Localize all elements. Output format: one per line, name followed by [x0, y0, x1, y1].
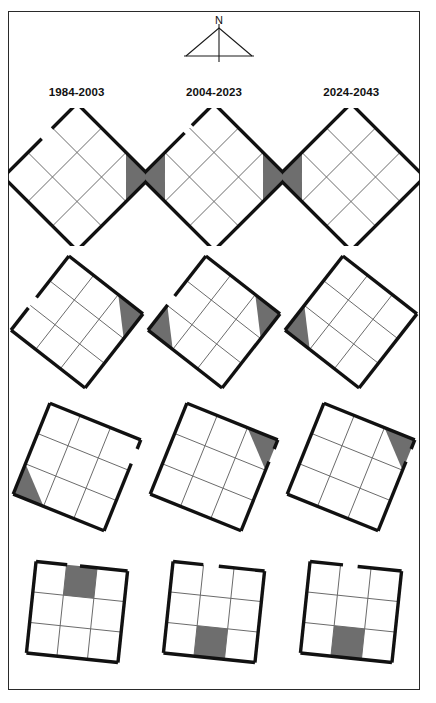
grid-line-horizontal — [302, 152, 376, 226]
shaded-cell-top-middle — [63, 564, 97, 598]
north-label: N — [176, 14, 262, 26]
outline-top — [36, 561, 67, 564]
shaded-cell-bottom-left — [282, 152, 302, 201]
outline-top — [358, 566, 402, 571]
grid-line-vertical — [327, 152, 401, 226]
grid-line-vertical — [52, 152, 126, 226]
grid-line-horizontal — [37, 433, 128, 470]
outline-left — [301, 561, 311, 653]
shaded-cell-bottom-left — [145, 152, 165, 201]
grid-line-vertical — [318, 415, 355, 506]
grid-line-vertical — [165, 127, 239, 201]
diagram-r4c2 — [145, 539, 282, 684]
outline-left — [36, 256, 68, 297]
outline-left — [52, 108, 77, 128]
grid-line-vertical — [211, 427, 248, 518]
grid-line-horizontal — [25, 463, 116, 500]
outline-top — [50, 403, 141, 440]
outline-right — [378, 461, 406, 530]
diagram-r3c1 — [8, 394, 145, 539]
outline-bottom — [285, 330, 359, 388]
diagram-r1c1 — [8, 104, 145, 249]
grid-line-horizontal — [327, 127, 401, 201]
outline-right — [137, 439, 141, 448]
outline-right — [241, 461, 269, 530]
grid-line-horizontal — [300, 463, 391, 500]
diagram-r4c3 — [283, 539, 420, 684]
outline-top — [187, 403, 278, 440]
grid-line-horizontal — [307, 591, 398, 601]
outline-right — [85, 313, 143, 387]
outline-top — [69, 256, 143, 314]
grid-line-vertical — [189, 152, 263, 226]
outline-bottom — [148, 330, 222, 388]
column-headers: 1984-2003 2004-2023 2024-2043 — [8, 86, 420, 98]
diagram-r4c1 — [8, 539, 145, 684]
outline-left — [11, 307, 28, 329]
grid-line-horizontal — [28, 152, 102, 226]
column-header-2: 2004-2023 — [145, 86, 282, 98]
grid-line-vertical — [180, 415, 217, 506]
shaded-cell-top-right — [263, 152, 283, 201]
diagram-r2c1 — [8, 249, 145, 394]
diagram-r1c3 — [283, 104, 420, 249]
outline-left — [26, 561, 36, 653]
grid-line-horizontal — [52, 127, 126, 201]
outline-top — [324, 403, 415, 440]
grid-line-vertical — [28, 127, 102, 201]
outline-bottom — [288, 494, 379, 531]
shaded-cell-bottom-middle — [331, 625, 365, 659]
diagram-r1c2 — [145, 104, 282, 249]
diagram-r3c3 — [283, 394, 420, 539]
outline-left — [175, 256, 206, 296]
grid-line-horizontal — [162, 463, 253, 500]
outline-left — [163, 561, 173, 653]
diagram-r2c3 — [283, 249, 420, 394]
grid-line-vertical — [362, 567, 372, 658]
grid-line-vertical — [43, 415, 80, 506]
grid-line-horizontal — [29, 622, 120, 632]
shaded-cell-bottom-middle — [194, 625, 228, 659]
outline-top — [343, 256, 417, 314]
grid-line-horizontal — [189, 127, 263, 201]
outline-right — [392, 571, 402, 663]
grid-line-vertical — [73, 427, 110, 518]
grid-line-horizontal — [165, 152, 239, 226]
outline-top — [173, 561, 203, 564]
grid-line-vertical — [57, 564, 67, 655]
outline-top — [310, 561, 343, 564]
outline-left — [8, 138, 42, 176]
outline-top — [206, 256, 280, 314]
diagram-r3c2 — [145, 394, 282, 539]
outline-bottom — [26, 652, 118, 662]
grid-line-vertical — [348, 427, 385, 518]
outline-left — [150, 403, 187, 494]
outline-bottom — [13, 494, 104, 531]
shaded-cell-top-right — [126, 152, 146, 201]
grid-line-vertical — [224, 567, 234, 658]
outline-right — [359, 313, 417, 387]
outline-right — [222, 313, 280, 387]
diagram-grid — [8, 104, 420, 684]
outline-right — [118, 571, 128, 663]
column-header-3: 2024-2043 — [283, 86, 420, 98]
outline-bottom — [11, 330, 85, 388]
outline-top — [219, 566, 265, 571]
grid-line-horizontal — [312, 433, 403, 470]
grid-line-horizontal — [170, 591, 261, 601]
grid-line-vertical — [302, 127, 376, 201]
outline-left — [285, 256, 343, 330]
outline-right — [255, 571, 265, 663]
outline-left — [288, 403, 325, 494]
column-header-1: 1984-2003 — [8, 86, 145, 98]
outline-bottom — [150, 494, 241, 531]
grid-line-horizontal — [175, 433, 266, 470]
outline-left — [192, 108, 214, 126]
diagram-r2c2 — [145, 249, 282, 394]
